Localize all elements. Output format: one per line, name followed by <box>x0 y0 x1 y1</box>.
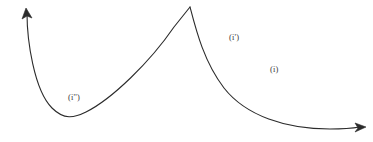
region-label-i-double-prime: (i'') <box>68 93 80 102</box>
curve-group <box>22 7 366 132</box>
region-label-i: (i) <box>270 65 279 74</box>
curve-diagram-canvas <box>0 0 373 142</box>
left-branch-path <box>27 7 190 117</box>
region-label-i-prime: (i') <box>229 33 239 42</box>
cusp-curve-figure: (i) (i') (i'') <box>0 0 373 142</box>
